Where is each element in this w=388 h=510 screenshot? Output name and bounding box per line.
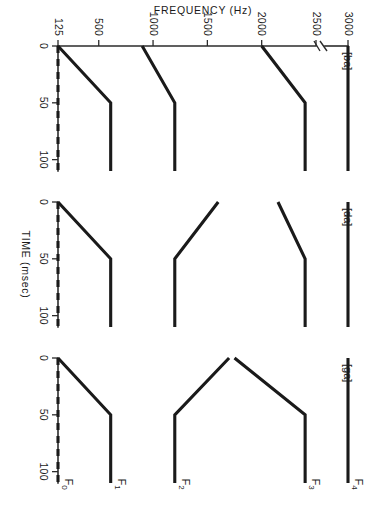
formant-label-subscript: 1 <box>113 485 122 490</box>
time-axis-title: TIME (msec) <box>20 231 32 299</box>
formant-plot-svg: 12550010001500200025003000FREQUENCY (Hz)… <box>0 0 388 510</box>
formant-trace-f3-ga <box>235 358 306 483</box>
time-axis-ga: 050100 <box>38 355 58 483</box>
time-tick-label: 50 <box>38 253 50 265</box>
time-tick-label: 0 <box>38 355 50 361</box>
frequency-tick-label: 500 <box>93 18 105 36</box>
formant-transition-figure: 12550010001500200025003000FREQUENCY (Hz)… <box>0 0 388 510</box>
panel-label-ga: [ga] <box>342 364 354 382</box>
figure-rotation-wrapper: 12550010001500200025003000FREQUENCY (Hz)… <box>0 0 388 510</box>
formant-trace-f3-da <box>278 202 305 327</box>
panel-label-da: [da] <box>342 208 354 226</box>
formant-label-f2: F2 <box>177 478 192 490</box>
formant-trace-f2-ga <box>175 358 229 483</box>
time-tick-label: 50 <box>38 97 50 109</box>
formant-trace-f1-da <box>58 202 111 327</box>
panel-da: 050100[da] <box>38 199 354 327</box>
time-tick-label: 0 <box>38 199 50 205</box>
formant-label-subscript: 3 <box>307 485 316 490</box>
formant-label-f4: F4 <box>350 478 365 490</box>
frequency-axis-title: FREQUENCY (Hz) <box>154 4 252 16</box>
formant-label-subscript: 0 <box>60 485 69 490</box>
formant-trace-f2-da <box>175 202 218 327</box>
time-axis-da: 050100 <box>38 199 58 327</box>
frequency-tick-label: 3000 <box>343 12 355 36</box>
formant-label-f0: F0 <box>60 478 75 490</box>
panel-label-ba: [ba] <box>342 52 354 70</box>
formant-label-f1: F1 <box>113 478 128 490</box>
time-tick-label: 100 <box>38 151 50 169</box>
panel-ba: 050100[ba] <box>38 43 354 171</box>
formant-trace-f1-ba <box>58 46 111 171</box>
frequency-tick-label: 2500 <box>311 12 323 36</box>
formant-trace-f2-ba <box>142 46 175 171</box>
time-axis-ba: 050100 <box>38 43 58 171</box>
panel-ga: 050100[ga]F0F1F2F3F4 <box>38 355 365 490</box>
time-tick-label: 0 <box>38 43 50 49</box>
frequency-axis: 12550010001500200025003000FREQUENCY (Hz) <box>53 4 355 51</box>
frequency-tick-label: 125 <box>53 18 65 36</box>
time-tick-label: 100 <box>38 463 50 481</box>
formant-label-subscript: 2 <box>177 485 186 490</box>
formant-label-f3: F3 <box>307 478 322 490</box>
formant-trace-f3-ba <box>262 46 305 171</box>
time-tick-label: 50 <box>38 409 50 421</box>
formant-label-subscript: 4 <box>350 485 359 490</box>
time-tick-label: 100 <box>38 307 50 325</box>
frequency-tick-label: 2000 <box>256 12 268 36</box>
formant-trace-f1-ga <box>58 358 111 483</box>
